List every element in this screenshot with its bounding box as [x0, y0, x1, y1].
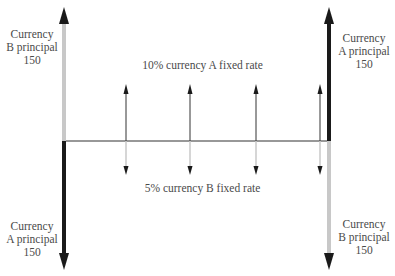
right-principal-up-arrow: [324, 7, 334, 141]
label-line: B principal: [336, 231, 392, 244]
label-line: 150: [4, 246, 60, 259]
label-line: Currency: [336, 32, 392, 45]
bottom-left-principal-label: Currency A principal 150: [4, 220, 60, 259]
label-line: 150: [336, 58, 392, 71]
interest-a-up-arrow-1: [124, 84, 129, 141]
label-line: A principal: [336, 45, 392, 58]
label-line: A principal: [4, 233, 60, 246]
interest-b-down-arrow-1: [124, 141, 129, 175]
label-line: 150: [336, 244, 392, 257]
interest-a-up-arrow-4: [318, 84, 323, 141]
interest-b-down-arrow-3: [254, 141, 259, 175]
interest-a-up-arrow-2: [188, 84, 193, 141]
bottom-right-principal-label: Currency B principal 150: [336, 218, 392, 257]
right-principal-down-arrow: [324, 141, 334, 270]
interest-b-down-arrow-4: [318, 141, 323, 175]
interest-b-down-arrow-2: [188, 141, 193, 175]
label-line: 150: [4, 54, 60, 67]
label-line: B principal: [4, 41, 60, 54]
left-principal-down-arrow: [59, 141, 69, 270]
lower-rate-label: 5% currency B fixed rate: [120, 182, 285, 195]
label-line: Currency: [4, 28, 60, 41]
top-right-principal-label: Currency A principal 150: [336, 32, 392, 71]
interest-a-up-arrow-3: [254, 84, 259, 141]
left-principal-up-arrow: [59, 7, 69, 141]
label-line: Currency: [336, 218, 392, 231]
upper-rate-label: 10% currency A fixed rate: [120, 59, 285, 72]
top-left-principal-label: Currency B principal 150: [4, 28, 60, 67]
label-line: Currency: [4, 220, 60, 233]
